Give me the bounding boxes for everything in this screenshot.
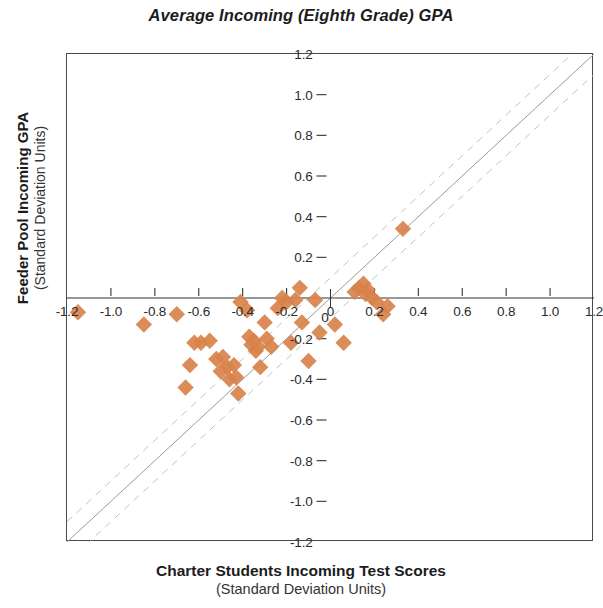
y-tick-label: 1.2	[269, 47, 313, 62]
plot-canvas	[67, 54, 594, 542]
data-point	[335, 335, 351, 351]
plot-area: -1.2-1.0-0.8-0.6-0.4-0.200.20.40.60.81.0…	[66, 53, 593, 541]
y-tick-label: 0	[285, 310, 329, 325]
x-tick-label: 0.8	[497, 304, 515, 319]
x-axis-label-main: Charter Students Incoming Test Scores	[0, 562, 602, 581]
x-axis-label: Charter Students Incoming Test Scores (S…	[0, 562, 602, 598]
y-tick-label: -0.4	[269, 372, 313, 387]
data-point	[256, 314, 272, 330]
x-tick-label: 1.2	[585, 304, 603, 319]
y-axis-label: Feeder Pool Incoming GPA (Standard Devia…	[14, 58, 60, 358]
x-tick-label: -0.4	[231, 304, 253, 319]
data-point	[307, 292, 323, 308]
data-point	[252, 359, 268, 375]
x-tick-label: 1.0	[541, 304, 559, 319]
x-tick-label: 0.2	[365, 304, 383, 319]
data-point	[230, 385, 246, 401]
data-point	[182, 357, 198, 373]
x-tick-label: -1.0	[100, 304, 122, 319]
x-axis-label-sub: (Standard Deviation Units)	[0, 581, 602, 598]
y-tick-label: -1.0	[269, 494, 313, 509]
y-tick-label: -0.6	[269, 413, 313, 428]
page-title: Average Incoming (Eighth Grade) GPA	[0, 6, 602, 25]
y-tick-label: -0.8	[269, 453, 313, 468]
y-tick-label: 0.4	[269, 209, 313, 224]
y-axis-label-main: Feeder Pool Incoming GPA	[14, 58, 32, 358]
x-tick-label: -0.8	[144, 304, 166, 319]
reference-line-upper-band	[67, 54, 594, 522]
x-tick-label: 0.6	[453, 304, 471, 319]
y-tick-label: -0.2	[269, 331, 313, 346]
y-axis-label-sub: (Standard Deviation Units)	[32, 58, 49, 358]
y-tick-label: 0.8	[269, 128, 313, 143]
x-tick-label: 0.4	[409, 304, 427, 319]
x-tick-label: -1.2	[56, 304, 78, 319]
y-tick-label: 0.6	[269, 169, 313, 184]
data-point	[177, 379, 193, 395]
data-point	[169, 306, 185, 322]
data-point	[300, 353, 316, 369]
y-tick-label: 0.2	[269, 250, 313, 265]
data-point	[395, 221, 411, 237]
y-tick-label: 1.0	[269, 87, 313, 102]
y-tick-label: -1.2	[269, 535, 313, 550]
x-tick-label: -0.6	[188, 304, 210, 319]
